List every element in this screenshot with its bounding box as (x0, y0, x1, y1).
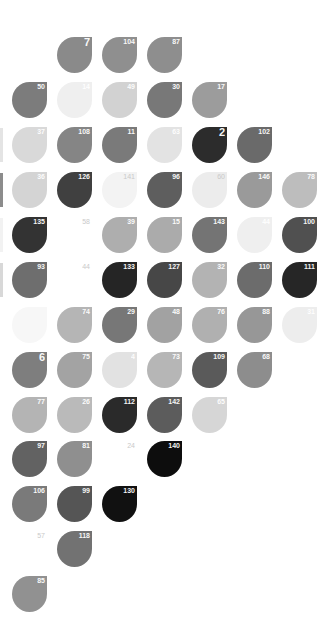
droplet-tile[interactable]: 30 (147, 82, 182, 118)
droplet-tile[interactable]: 77 (12, 397, 47, 433)
droplet-label: 97 (37, 442, 45, 450)
droplet-tile[interactable]: 60 (192, 172, 227, 208)
droplet-tile[interactable]: 140 (147, 441, 182, 477)
droplet-label: 143 (213, 218, 225, 226)
droplet-tile[interactable]: 37 (12, 127, 47, 163)
droplet-tile[interactable]: 100 (282, 217, 317, 253)
droplet-tile[interactable]: 143 (192, 217, 227, 253)
droplet-tile[interactable]: 93 (12, 262, 47, 298)
droplet-tile[interactable]: 99 (57, 486, 92, 522)
droplet-tile[interactable]: 110 (237, 262, 272, 298)
droplet-label: 29 (127, 308, 135, 316)
droplet-tile[interactable]: 142 (147, 397, 182, 433)
droplet-tile[interactable]: 74 (57, 307, 92, 343)
droplet-label: 68 (262, 353, 270, 361)
droplet-tile[interactable]: 6 (12, 352, 47, 388)
droplet-tile[interactable]: 63 (147, 127, 182, 163)
droplet-tile[interactable] (12, 307, 47, 343)
droplet-tile[interactable]: 146 (237, 172, 272, 208)
droplet-label: 140 (168, 442, 180, 450)
droplet-label: 65 (217, 398, 225, 406)
droplet-tile[interactable]: 26 (57, 397, 92, 433)
droplet-tile[interactable]: 76 (192, 307, 227, 343)
droplet-tile[interactable]: 88 (237, 307, 272, 343)
droplet-tile[interactable]: 29 (102, 307, 137, 343)
droplet-tile[interactable]: 2 (192, 127, 227, 163)
droplet-label: 118 (79, 532, 90, 540)
droplet-tile[interactable]: 31 (282, 307, 317, 343)
droplet-label: 93 (37, 263, 45, 271)
droplet-tile[interactable]: 75 (57, 352, 92, 388)
droplet-label: 73 (172, 353, 180, 361)
droplet-tile[interactable]: 112 (102, 397, 137, 433)
droplet-tile[interactable]: 78 (282, 172, 317, 208)
droplet-label: 6 (39, 352, 45, 363)
droplet-label: 127 (168, 263, 180, 271)
droplet-tile[interactable]: 11 (102, 127, 137, 163)
droplet-tile[interactable]: 104 (102, 37, 137, 73)
droplet-label: 109 (213, 353, 225, 361)
droplet-label: 146 (258, 173, 270, 181)
droplet-tile[interactable]: 96 (147, 172, 182, 208)
droplet-label: 78 (307, 173, 315, 181)
droplet-tile[interactable]: 87 (147, 37, 182, 73)
droplet-label: 32 (217, 263, 225, 271)
droplet-tile[interactable]: 65 (192, 397, 227, 433)
droplet-tile[interactable]: 106 (12, 486, 47, 522)
droplet-label: 44 (82, 263, 90, 271)
droplet-tile[interactable]: 126 (57, 172, 92, 208)
droplet-tile[interactable]: 49 (102, 82, 137, 118)
droplet-label: 44 (262, 218, 270, 226)
droplet-tile[interactable]: 130 (102, 486, 137, 522)
droplet-label: 77 (37, 398, 45, 406)
droplet-tile[interactable]: 73 (147, 352, 182, 388)
droplet-tile[interactable]: 133 (102, 262, 137, 298)
droplet-label: 100 (303, 218, 315, 226)
droplet-tile[interactable]: 85 (12, 576, 47, 612)
droplet-label: 108 (78, 128, 90, 136)
droplet-label: 111 (304, 263, 315, 271)
droplet-label: 57 (37, 532, 45, 540)
droplet-tile[interactable]: 141 (102, 172, 137, 208)
droplet-label: 24 (127, 442, 135, 450)
droplet-tile[interactable]: 135 (12, 217, 47, 253)
droplet-label: 75 (82, 353, 90, 361)
droplet-label: 135 (33, 218, 45, 226)
droplet-tile[interactable]: 15 (147, 217, 182, 253)
droplet-tile[interactable]: 36 (12, 172, 47, 208)
droplet-tile[interactable]: 17 (192, 82, 227, 118)
droplet-label: 15 (172, 218, 180, 226)
droplet-tile[interactable]: 97 (12, 441, 47, 477)
droplet-tile[interactable]: 108 (57, 127, 92, 163)
droplet-tile[interactable]: 111 (282, 262, 317, 298)
droplet-tile[interactable]: 57 (12, 531, 47, 567)
droplet-tile[interactable]: 81 (57, 441, 92, 477)
droplet-tile[interactable]: 109 (192, 352, 227, 388)
droplet-tile[interactable]: 58 (57, 217, 92, 253)
droplet-label: 102 (258, 128, 270, 136)
droplet-tile[interactable]: 4 (102, 352, 137, 388)
droplet-label: 88 (262, 308, 270, 316)
edge-fragment (0, 173, 3, 207)
droplet-tile[interactable]: 118 (57, 531, 92, 567)
droplet-label: 112 (124, 398, 135, 406)
droplet-tile[interactable]: 32 (192, 262, 227, 298)
droplet-tile[interactable]: 24 (102, 441, 137, 477)
droplet-tile[interactable]: 48 (147, 307, 182, 343)
droplet-label: 37 (37, 128, 45, 136)
droplet-label: 4 (131, 353, 135, 361)
droplet-tile[interactable]: 7 (57, 37, 92, 73)
droplet-label: 11 (128, 128, 135, 136)
droplet-tile[interactable]: 39 (102, 217, 137, 253)
droplet-tile[interactable]: 102 (237, 127, 272, 163)
droplet-tile[interactable]: 68 (237, 352, 272, 388)
droplet-tile[interactable]: 50 (12, 82, 47, 118)
droplet-tile[interactable]: 14 (57, 82, 92, 118)
droplet-tile[interactable]: 44 (57, 262, 92, 298)
edge-fragment (0, 263, 3, 297)
droplet-tile[interactable]: 127 (147, 262, 182, 298)
droplet-label: 76 (217, 308, 225, 316)
droplet-label: 81 (82, 442, 90, 450)
droplet-tile[interactable]: 44 (237, 217, 272, 253)
droplet-label: 106 (33, 487, 45, 495)
